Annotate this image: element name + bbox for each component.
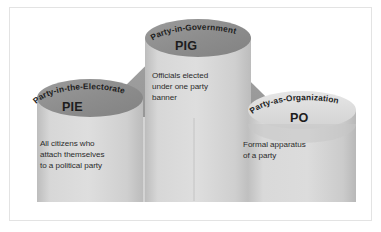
po-acronym: PO: [290, 111, 309, 125]
pig-cylinder: [145, 19, 251, 202]
pig-acronym: PIG: [175, 39, 197, 53]
po-description: Formal apparatus of a party: [243, 139, 306, 161]
pie-description: All citizens who attach themselves to a …: [40, 138, 104, 172]
diagram-canvas: Party-in-the-Electorate Party-in-Governm…: [0, 0, 381, 232]
party-structure-illustration: Party-in-the-Electorate Party-in-Governm…: [0, 0, 381, 232]
pig-description: Officials elected under one party banner: [152, 70, 208, 104]
pie-acronym: PIE: [62, 100, 83, 114]
